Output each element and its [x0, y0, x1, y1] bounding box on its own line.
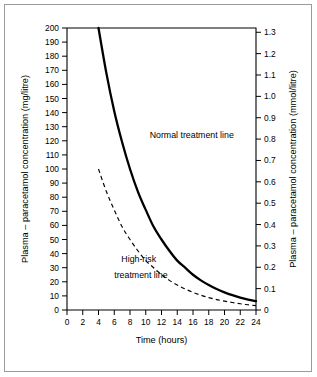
x-axis-ticks: 024681012141618202224 — [65, 310, 261, 327]
y-axis-left-title: Plasma – paracetamol concentration (mg/l… — [20, 75, 30, 263]
paracetamol-treatment-nomogram: 0102030405060708090100110120130140150160… — [0, 0, 317, 377]
y-tick-label-right: 0.6 — [264, 177, 276, 187]
y-tick-label-left: 130 — [45, 122, 59, 132]
y-tick-label-left: 170 — [45, 65, 59, 75]
y-tick-label-right: 0.8 — [264, 134, 276, 144]
chart-container: 0102030405060708090100110120130140150160… — [0, 0, 317, 377]
x-tick-label: 12 — [157, 317, 167, 327]
x-axis-title: Time (hours) — [136, 335, 188, 345]
y-tick-label-left: 30 — [50, 263, 60, 273]
y-tick-label-right: 0 — [264, 305, 269, 315]
y-tick-label-right: 1.1 — [264, 70, 276, 80]
y-tick-label-left: 90 — [50, 178, 60, 188]
x-tick-label: 14 — [173, 317, 183, 327]
y-tick-label-left: 50 — [50, 235, 60, 245]
x-tick-label: 6 — [112, 317, 117, 327]
y-tick-label-left: 20 — [50, 277, 60, 287]
y-tick-label-right: 0.4 — [264, 220, 276, 230]
y-tick-label-left: 80 — [50, 192, 60, 202]
y-tick-label-left: 10 — [50, 291, 60, 301]
x-tick-label: 20 — [220, 317, 230, 327]
y-tick-label-left: 0 — [54, 305, 59, 315]
y-axis-right-ticks: 00.10.20.30.40.50.60.70.80.91.01.11.21.3 — [256, 27, 276, 315]
y-tick-label-right: 0.1 — [264, 284, 276, 294]
annotation-high-risk-line-2: treatment line — [114, 270, 167, 280]
figure-page: 0102030405060708090100110120130140150160… — [0, 0, 317, 377]
annotation-normal-treatment-line: Normal treatment line — [150, 130, 234, 140]
y-axis-right-title: Plasma – paracetamol concentration (mmol… — [288, 70, 298, 268]
x-tick-label: 24 — [251, 317, 261, 327]
y-tick-label-left: 190 — [45, 37, 59, 47]
y-tick-label-right: 1.0 — [264, 91, 276, 101]
y-tick-label-right: 1.2 — [264, 49, 276, 59]
x-tick-label: 18 — [204, 317, 214, 327]
high-risk-treatment-line — [99, 169, 257, 306]
x-tick-label: 22 — [236, 317, 246, 327]
y-tick-label-right: 0.2 — [264, 262, 276, 272]
y-tick-label-left: 150 — [45, 94, 59, 104]
y-tick-label-left: 120 — [45, 136, 59, 146]
y-tick-label-left: 160 — [45, 79, 59, 89]
y-tick-label-right: 0.7 — [264, 155, 276, 165]
x-tick-label: 16 — [188, 317, 198, 327]
y-tick-label-left: 60 — [50, 220, 60, 230]
plot-axes-frame — [67, 28, 256, 310]
y-tick-label-right: 0.9 — [264, 113, 276, 123]
annotation-high-risk-line-1: High-risk — [121, 254, 156, 264]
y-tick-label-right: 1.3 — [264, 27, 276, 37]
x-tick-label: 10 — [141, 317, 151, 327]
x-tick-label: 2 — [80, 317, 85, 327]
y-tick-label-right: 0.3 — [264, 241, 276, 251]
x-tick-label: 4 — [96, 317, 101, 327]
y-tick-label-left: 200 — [45, 23, 59, 33]
y-tick-label-left: 100 — [45, 164, 59, 174]
y-tick-label-left: 110 — [46, 150, 60, 160]
y-axis-left-ticks: 0102030405060708090100110120130140150160… — [45, 23, 67, 315]
x-tick-label: 8 — [128, 317, 133, 327]
y-tick-label-right: 0.5 — [264, 198, 276, 208]
y-tick-label-left: 140 — [45, 108, 59, 118]
x-tick-label: 0 — [65, 317, 70, 327]
y-tick-label-left: 40 — [50, 249, 60, 259]
y-tick-label-left: 70 — [50, 206, 60, 216]
y-tick-label-left: 180 — [45, 51, 59, 61]
